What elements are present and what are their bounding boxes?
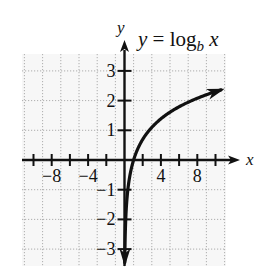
title-eq-log: = log: [147, 27, 197, 51]
y-tick-label: 2: [107, 91, 116, 111]
chart-title: y = logb x: [136, 27, 219, 54]
y-axis-label: y: [115, 18, 125, 37]
y-tick-label: −3: [96, 239, 115, 259]
y-tick-label: −1: [96, 180, 115, 200]
x-tick-label: 8: [193, 166, 202, 186]
x-tick-label: −8: [42, 166, 61, 186]
title-x: x: [204, 27, 219, 51]
y-tick-label: 1: [107, 120, 116, 140]
y-tick-label: 3: [107, 61, 116, 81]
log-function-chart: −8−448321−1−2−3 x y y = logb x: [0, 0, 264, 269]
title-y: y: [136, 27, 148, 51]
x-axis-label: x: [245, 150, 254, 169]
x-tick-label: 4: [156, 166, 165, 186]
x-tick-label: −4: [79, 166, 98, 186]
y-tick-label: −2: [96, 209, 115, 229]
